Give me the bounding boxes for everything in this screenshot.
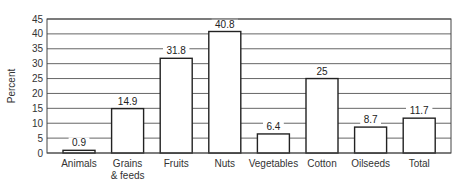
- value-label: 11.7: [410, 105, 429, 116]
- value-label: 14.9: [118, 96, 138, 107]
- y-tick-label: 0: [37, 148, 43, 159]
- bar-chart: 051015202530354045 Percent 0.914.931.840…: [0, 0, 464, 186]
- y-tick-label: 25: [32, 73, 44, 84]
- value-label: 40.8: [215, 19, 235, 30]
- y-tick-label: 15: [32, 103, 44, 114]
- y-tick-label: 10: [32, 118, 44, 129]
- bar: [209, 32, 241, 153]
- x-tick-label: Total: [409, 158, 430, 169]
- x-tick-label: Animals: [61, 158, 97, 169]
- plot-frame: [47, 19, 451, 153]
- x-tick-label: Cotton: [307, 158, 336, 169]
- bar: [306, 79, 338, 153]
- y-tick-label: 40: [32, 28, 44, 39]
- value-label: 6.4: [266, 121, 280, 132]
- bar: [355, 127, 387, 153]
- value-label: 25: [316, 66, 328, 77]
- x-tick-label: Oilseeds: [351, 158, 390, 169]
- bars: 0.914.931.840.86.4258.711.7: [63, 19, 435, 153]
- x-tick-label: Grains: [113, 158, 142, 169]
- x-tick-label: Vegetables: [249, 158, 299, 169]
- bar: [112, 109, 144, 153]
- x-tick-label: Nuts: [215, 158, 236, 169]
- y-axis-ticks: 051015202530354045: [32, 14, 44, 159]
- value-label: 8.7: [364, 114, 378, 125]
- y-tick-label: 5: [37, 133, 43, 144]
- y-tick-label: 20: [32, 88, 44, 99]
- bar: [160, 58, 192, 153]
- y-tick-label: 45: [32, 14, 44, 25]
- bar: [257, 134, 289, 153]
- y-tick-label: 35: [32, 43, 44, 54]
- x-tick-label: & feeds: [111, 170, 145, 181]
- value-label: 0.9: [72, 137, 86, 148]
- gridlines: [47, 19, 451, 153]
- y-tick-label: 30: [32, 58, 44, 69]
- x-axis-labels: AnimalsGrains& feedsFruitsNutsVegetables…: [61, 158, 430, 181]
- value-label: 31.8: [166, 45, 186, 56]
- bar: [403, 118, 435, 153]
- x-tick-label: Fruits: [164, 158, 189, 169]
- y-axis-label: Percent: [6, 69, 17, 104]
